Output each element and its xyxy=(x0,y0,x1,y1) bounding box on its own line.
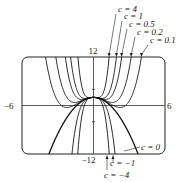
annotation-leader xyxy=(131,37,135,55)
x-max-label: 6 xyxy=(167,101,172,111)
arrow-icon xyxy=(120,53,123,57)
arrow-icon xyxy=(140,53,143,57)
curve-label: c = 0.1 xyxy=(150,35,176,45)
arrow-icon xyxy=(106,155,109,159)
y-max-label: 12 xyxy=(89,46,98,56)
arrow-icon xyxy=(130,53,133,57)
x-min-label: −6 xyxy=(4,101,14,111)
arrow-icon xyxy=(115,53,118,57)
annotation-leader xyxy=(116,21,122,55)
curve-label: c = −1 xyxy=(110,158,135,168)
annotation-leader xyxy=(109,14,116,55)
annotation-leader xyxy=(122,29,127,55)
annotation-leader xyxy=(124,147,140,151)
function-family-chart: −6612−12c = 4c = 1c = 0.5c = 0.2c = 0.1c… xyxy=(0,0,176,182)
curve-label: c = −4 xyxy=(104,170,130,180)
curve-label: c = 0 xyxy=(141,142,161,152)
y-min-label: −12 xyxy=(82,155,96,165)
arrow-icon xyxy=(108,53,111,57)
